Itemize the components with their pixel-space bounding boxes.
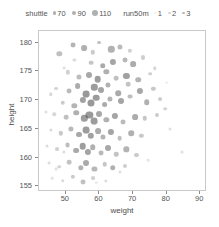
data-point [153, 67, 156, 70]
y-tick-mark [35, 99, 38, 100]
legend-marker-icon [53, 11, 56, 14]
data-point [86, 72, 92, 78]
data-point [137, 88, 143, 94]
data-point [78, 165, 83, 170]
legend-key-run50m-3: 3 [182, 9, 190, 18]
data-point [104, 117, 109, 122]
data-point [61, 179, 64, 182]
data-point [52, 113, 55, 116]
legend-key-run50m-2: 2 [168, 9, 176, 18]
data-point [91, 117, 98, 124]
data-point [51, 177, 54, 180]
x-tick-mark [132, 191, 133, 194]
legend-title-run50m: run50m [123, 9, 148, 18]
data-point [139, 133, 143, 137]
data-point [94, 76, 101, 83]
data-point [114, 152, 119, 157]
legend-label-shuttle-90: 90 [78, 9, 86, 18]
data-point [147, 159, 150, 162]
legend-label-run50m-3: 3 [186, 9, 190, 18]
data-point [148, 72, 152, 76]
data-point [75, 83, 81, 89]
data-point [96, 111, 102, 117]
data-point [70, 43, 75, 48]
data-point [123, 73, 129, 79]
data-point [54, 87, 58, 91]
data-point [143, 116, 148, 121]
y-tick-mark [35, 185, 38, 186]
data-point [114, 76, 119, 81]
data-point [117, 136, 122, 141]
data-point [126, 82, 131, 87]
data-point [73, 148, 79, 154]
data-point [121, 119, 126, 124]
data-point [81, 45, 87, 51]
y-axis-label: height [7, 75, 16, 155]
legend-marker-icon [154, 12, 157, 15]
data-point [64, 115, 69, 120]
data-point [77, 74, 82, 79]
data-point [123, 164, 127, 168]
data-point [130, 61, 136, 67]
data-point [100, 134, 105, 139]
x-axis-label: weight [38, 206, 206, 215]
data-point [49, 93, 52, 96]
x-tick-mark [166, 191, 167, 194]
x-tick-mark [98, 191, 99, 194]
data-point [80, 179, 85, 184]
data-point [180, 150, 183, 153]
data-point [155, 113, 159, 117]
data-point [132, 114, 138, 120]
data-point [158, 97, 162, 101]
data-point [135, 77, 141, 83]
legend-title-shuttle: shuttle [26, 9, 48, 18]
data-point [129, 131, 135, 137]
legend-key-shuttle-110: 110 [92, 9, 111, 18]
data-point [165, 81, 168, 84]
data-point [67, 160, 72, 165]
data-point [105, 82, 110, 87]
data-point [93, 94, 100, 101]
x-tick-label: 80 [156, 194, 176, 203]
data-point [102, 162, 107, 167]
data-point [59, 131, 63, 135]
legend-label-shuttle-110: 110 [99, 9, 111, 18]
data-point [117, 45, 122, 50]
data-point [128, 49, 132, 53]
data-point [107, 96, 112, 101]
data-point [100, 63, 106, 69]
y-tick-mark [35, 128, 38, 129]
data-point [46, 144, 49, 147]
y-tick-label: 180 [10, 37, 32, 46]
scatter-plot-figure: shuttle 70 90 110 run50m 1 2 [0, 0, 219, 227]
data-point [80, 97, 86, 103]
data-point [98, 41, 102, 45]
data-point [92, 166, 97, 171]
data-point [134, 153, 138, 157]
legend-marker-icon [182, 12, 185, 15]
data-point [102, 102, 108, 108]
x-tick-label: 50 [55, 194, 75, 203]
data-point [169, 127, 172, 130]
data-point [44, 110, 47, 113]
data-point [141, 55, 145, 59]
legend-label-run50m-2: 2 [172, 9, 176, 18]
x-tick-label: 90 [189, 194, 209, 203]
data-point [151, 86, 155, 90]
data-point [63, 150, 66, 153]
data-point [56, 51, 61, 56]
data-point [98, 87, 104, 93]
data-point [60, 101, 65, 106]
data-point [110, 59, 116, 65]
legend-key-shuttle-70: 70 [53, 9, 66, 18]
data-point [108, 46, 114, 52]
data-point [63, 67, 66, 70]
data-point [65, 70, 69, 74]
data-point [65, 142, 70, 147]
data-point [163, 107, 167, 111]
plot-area [38, 30, 206, 191]
data-point [108, 129, 114, 135]
data-point [73, 110, 79, 116]
legend-label-shuttle-70: 70 [57, 9, 65, 18]
legend-marker-icon [72, 11, 76, 15]
